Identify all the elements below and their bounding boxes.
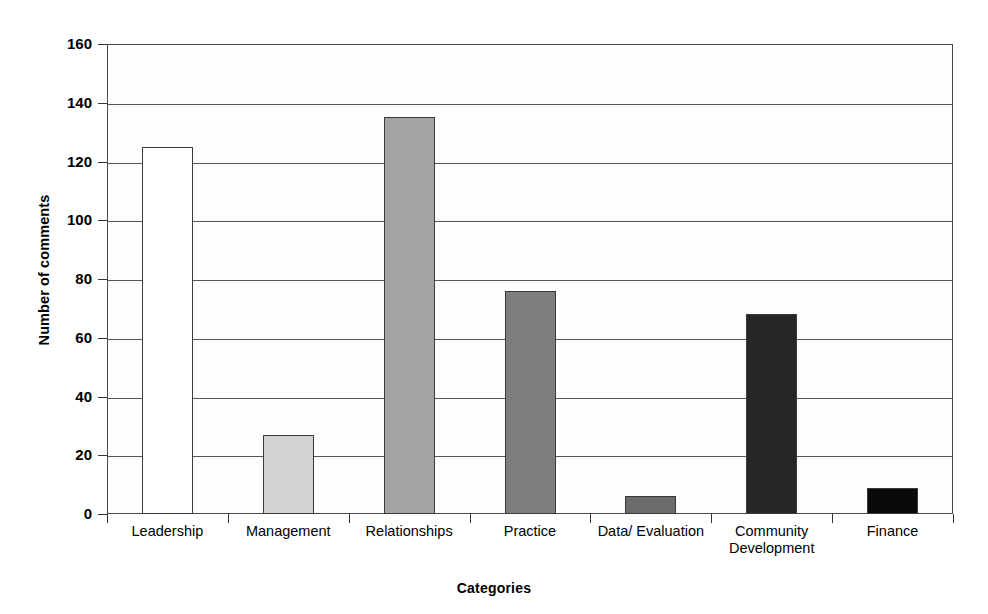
y-axis-tick xyxy=(98,455,107,456)
x-axis-tick xyxy=(590,514,591,523)
x-axis-category-label: Management xyxy=(228,523,349,540)
x-axis-tick xyxy=(228,514,229,523)
x-axis-tick xyxy=(470,514,471,523)
x-axis-tick xyxy=(107,514,108,523)
bar xyxy=(505,291,556,514)
y-axis-tick-label: 140 xyxy=(32,95,92,110)
y-axis-tick xyxy=(98,279,107,280)
gridline xyxy=(108,104,952,105)
y-axis-tick xyxy=(98,338,107,339)
y-axis-tick xyxy=(98,103,107,104)
y-axis-tick xyxy=(98,162,107,163)
gridline xyxy=(108,280,952,281)
bar xyxy=(142,147,193,514)
y-axis-tick-label: 40 xyxy=(32,389,92,404)
x-axis-category-label: Relationships xyxy=(349,523,470,540)
bar xyxy=(867,488,918,514)
gridline xyxy=(108,221,952,222)
bar-chart: Number of comments 020406080100120140160… xyxy=(0,0,988,614)
x-axis-tick xyxy=(832,514,833,523)
y-axis-tick-label: 160 xyxy=(32,36,92,51)
x-axis-category-label: Data/ Evaluation xyxy=(590,523,711,540)
y-axis-title: Number of comments xyxy=(36,160,52,380)
bar xyxy=(746,314,797,514)
y-axis-tick xyxy=(98,514,107,515)
x-axis-title: Categories xyxy=(0,580,988,596)
x-axis-category-label: Community Development xyxy=(711,523,832,557)
x-axis-tick xyxy=(349,514,350,523)
y-axis-tick xyxy=(98,397,107,398)
x-axis-category-label: Leadership xyxy=(107,523,228,540)
x-axis-tick xyxy=(953,514,954,523)
x-axis-category-label: Practice xyxy=(470,523,591,540)
y-axis-tick-label: 20 xyxy=(32,447,92,462)
y-axis-tick-label: 100 xyxy=(32,212,92,227)
y-axis-tick-label: 60 xyxy=(32,330,92,345)
x-axis-category-label: Finance xyxy=(832,523,953,540)
bar xyxy=(384,117,435,514)
bar xyxy=(625,496,676,514)
bar xyxy=(263,435,314,514)
y-axis-tick-label: 0 xyxy=(32,506,92,521)
gridline xyxy=(108,163,952,164)
x-axis-tick xyxy=(711,514,712,523)
y-axis-tick xyxy=(98,220,107,221)
y-axis-tick-label: 80 xyxy=(32,271,92,286)
y-axis-tick-label: 120 xyxy=(32,154,92,169)
y-axis-tick xyxy=(98,44,107,45)
